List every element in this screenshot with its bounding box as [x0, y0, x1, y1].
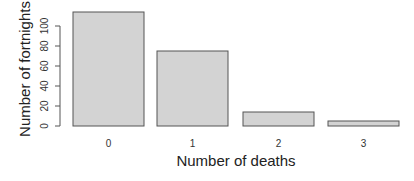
- bar-2: [243, 112, 314, 126]
- y-tick-label: 80: [39, 40, 50, 52]
- x-tick-label: 1: [190, 138, 196, 149]
- y-tick-label: 60: [39, 60, 50, 72]
- y-axis-label: Number of fortnights: [16, 1, 33, 137]
- bar-3: [328, 121, 399, 126]
- bar-1: [157, 51, 228, 126]
- y-tick-label: 20: [39, 100, 50, 112]
- bar-chart: Number of fortnights 020406080100 0123 N…: [0, 0, 414, 181]
- x-tick-label: 3: [361, 138, 367, 149]
- bar-0: [73, 12, 144, 126]
- x-tick-label: 0: [106, 138, 112, 149]
- x-axis-label: Number of deaths: [176, 152, 295, 169]
- y-tick-label: 40: [39, 80, 50, 92]
- y-axis: 020406080100: [39, 17, 60, 129]
- bars: [73, 12, 399, 126]
- x-axis-tick-labels: 0123: [106, 138, 367, 149]
- x-tick-label: 2: [276, 138, 282, 149]
- y-tick-label: 0: [39, 123, 50, 129]
- y-tick-label: 100: [39, 17, 50, 34]
